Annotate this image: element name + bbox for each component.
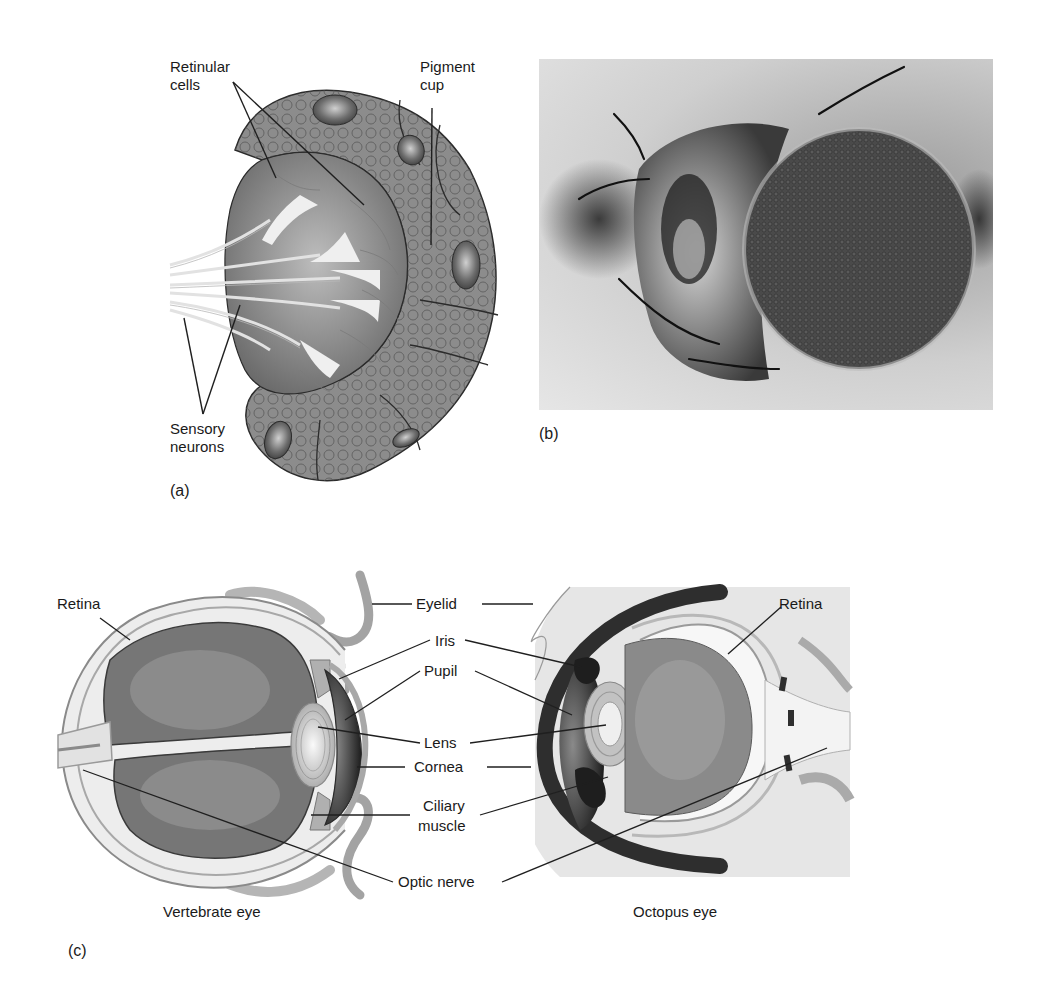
label-retina-octopus: Retina [779, 595, 822, 613]
label-pupil: Pupil [424, 662, 457, 680]
label-ciliary-muscle-line2: muscle [418, 817, 466, 835]
label-ciliary-muscle-line1: Ciliary [423, 797, 465, 815]
label-optic-nerve: Optic nerve [398, 873, 475, 891]
label-eyelid: Eyelid [416, 595, 457, 613]
caption-vertebrate-eye: Vertebrate eye [163, 903, 261, 921]
vertebrate-eye [58, 575, 369, 895]
caption-octopus-eye: Octopus eye [633, 903, 717, 921]
label-lens: Lens [424, 734, 457, 752]
vertebrate-octopus-eye-diagram [0, 0, 1046, 1006]
label-retina-vertebrate: Retina [57, 595, 100, 613]
panel-c-letter: (c) [68, 942, 87, 960]
label-iris: Iris [435, 632, 455, 650]
label-cornea: Cornea [414, 758, 463, 776]
octopus-eye [515, 587, 850, 877]
